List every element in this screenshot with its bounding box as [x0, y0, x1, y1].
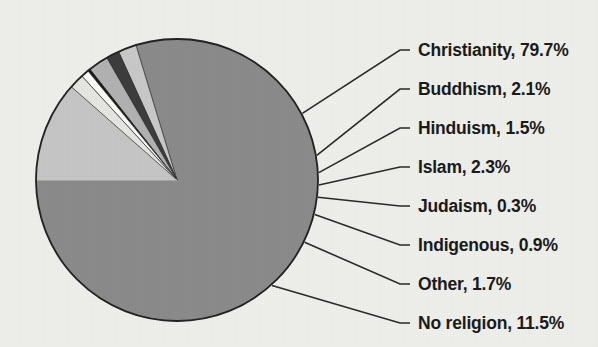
pie-chart-canvas: Christianity, 79.7%Buddhism, 2.1%Hinduis… — [0, 0, 598, 347]
slice-label: Buddhism, 2.1% — [418, 79, 551, 99]
slice-label: Christianity, 79.7% — [418, 40, 569, 60]
slice-label: Indigenous, 0.9% — [418, 235, 558, 255]
slice-label: No religion, 11.5% — [418, 313, 565, 333]
slice-label: Hinduism, 1.5% — [418, 118, 545, 138]
slice-label: Islam, 2.3% — [418, 157, 511, 177]
pie-chart-figure: Christianity, 79.7%Buddhism, 2.1%Hinduis… — [0, 0, 598, 347]
pie-slices-group — [36, 39, 318, 321]
slice-label: Other, 1.7% — [418, 274, 512, 294]
slice-label: Judaism, 0.3% — [418, 196, 537, 216]
